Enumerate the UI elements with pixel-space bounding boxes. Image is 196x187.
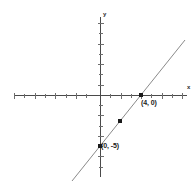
data-point-midpoint (118, 119, 122, 123)
graph-canvas (0, 0, 196, 187)
point-label-y-intercept: (0, -5) (101, 142, 119, 149)
x-axis-label: x (187, 84, 190, 90)
point-label-x-intercept: (4, 0) (141, 99, 157, 106)
coordinate-plane-figure: x y (4, 0) (0, -5) (0, 0, 196, 187)
plotted-line (72, 40, 185, 181)
data-point-x-intercept (139, 93, 143, 97)
y-axis-label: y (103, 11, 106, 17)
